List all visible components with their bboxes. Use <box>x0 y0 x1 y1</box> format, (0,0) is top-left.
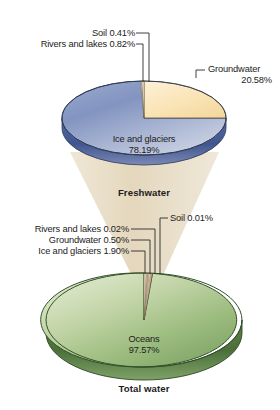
total-water-label-groundwater: Groundwater 0.50% <box>0 235 129 246</box>
freshwater-leader-lines <box>136 33 205 82</box>
total-water-label-ice-and-glaciers: Ice and glaciers 1.90% <box>0 246 129 257</box>
freshwater-label-groundwater-name: Groundwater <box>208 64 260 75</box>
total-water-label-soil: Soil 0.01% <box>170 213 213 224</box>
total-water-label-oceans-name: Oceans <box>84 334 204 345</box>
freshwater-label-ice-value: 78.19% <box>84 145 204 156</box>
freshwater-label-soil: Soil 0.41% <box>0 28 135 39</box>
freshwater-label-rivers-and-lakes: Rivers and lakes 0.82% <box>0 39 135 50</box>
total-water-label-oceans-value: 97.57% <box>84 345 204 356</box>
freshwater-slice-groundwater <box>144 81 226 118</box>
freshwater-label-groundwater-value: 20.58% <box>208 75 272 86</box>
freshwater-label-ice-name: Ice and glaciers <box>84 134 204 145</box>
freshwater-caption: Freshwater <box>84 187 204 198</box>
total-water-caption: Total water <box>84 383 204 394</box>
total-water-label-rivers-and-lakes: Rivers and lakes 0.02% <box>0 224 129 235</box>
total-water-pie-chart <box>41 273 242 380</box>
